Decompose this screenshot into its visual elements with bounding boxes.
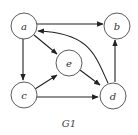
node-a: a: [11, 13, 37, 39]
graph-canvas: a b c d e G1: [0, 0, 138, 135]
svg-text:d: d: [110, 91, 116, 102]
graph-caption: G1: [62, 118, 76, 129]
edge-c-e: [35, 75, 57, 89]
svg-text:b: b: [114, 21, 120, 32]
svg-text:c: c: [21, 90, 27, 101]
node-b: b: [104, 13, 130, 39]
node-e: e: [56, 50, 82, 76]
edge-a-e: [34, 35, 57, 54]
svg-text:e: e: [66, 58, 72, 69]
edge-e-d: [80, 70, 100, 85]
node-c: c: [11, 82, 37, 108]
svg-text:a: a: [21, 21, 27, 32]
node-d: d: [100, 83, 126, 109]
